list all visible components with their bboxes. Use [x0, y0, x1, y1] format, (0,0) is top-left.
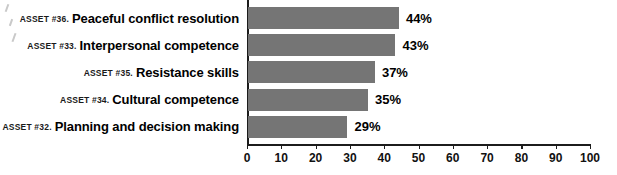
- x-axis-tick: [316, 145, 317, 149]
- asset-title: Resistance skills: [136, 65, 239, 80]
- x-axis-tick: [487, 145, 488, 149]
- x-axis-tick: [384, 145, 385, 149]
- bar: [248, 61, 375, 83]
- category-label: ASSET #36.Peaceful conflict resolution: [20, 7, 239, 29]
- category-label-column: ASSET #36.Peaceful conflict resolutionAS…: [0, 0, 243, 145]
- x-axis-tick: [281, 145, 282, 149]
- x-axis-tick-label: 40: [378, 151, 391, 165]
- asset-number: ASSET #35.: [84, 68, 133, 78]
- asset-number: ASSET #34.: [60, 95, 109, 105]
- bar: [248, 7, 399, 29]
- asset-title: Planning and decision making: [55, 119, 239, 134]
- asset-number: ASSET #32.: [2, 122, 51, 132]
- bar-value-label: 43%: [402, 34, 428, 56]
- bar: [248, 89, 368, 111]
- x-axis-tick-label: 100: [580, 151, 600, 165]
- category-label: ASSET #34.Cultural competence: [60, 89, 239, 111]
- category-label: ASSET #33.Interpersonal competence: [27, 34, 239, 56]
- bar-value-label: 37%: [382, 61, 408, 83]
- x-axis-tick: [521, 145, 522, 149]
- x-axis-tick-label: 20: [309, 151, 322, 165]
- category-label: ASSET #32.Planning and decision making: [2, 116, 239, 138]
- x-axis-tick-label: 70: [480, 151, 493, 165]
- bar-value-label: 29%: [354, 116, 380, 138]
- x-axis-tick-label: 10: [275, 151, 288, 165]
- social-competencies-bar-chart: ASSET #36.Peaceful conflict resolutionAS…: [0, 0, 617, 175]
- x-axis-tick-label: 80: [515, 151, 528, 165]
- x-axis-tick: [350, 145, 351, 149]
- plot-area: 0102030405060708090100 44%43%37%35%29%: [247, 0, 617, 175]
- asset-number: ASSET #33.: [27, 41, 76, 51]
- x-axis-tick: [590, 145, 591, 149]
- bar-value-label: 44%: [406, 7, 432, 29]
- x-axis-tick-label: 30: [343, 151, 356, 165]
- asset-title: Cultural competence: [112, 92, 239, 107]
- x-axis-tick: [556, 145, 557, 149]
- x-axis-tick: [453, 145, 454, 149]
- asset-title: Interpersonal competence: [80, 38, 239, 53]
- x-axis-tick-label: 0: [244, 151, 251, 165]
- x-axis-tick-label: 50: [412, 151, 425, 165]
- category-label: ASSET #35.Resistance skills: [84, 61, 239, 83]
- asset-title: Peaceful conflict resolution: [72, 11, 239, 26]
- x-axis-tick: [247, 145, 248, 149]
- bar-value-label: 35%: [375, 89, 401, 111]
- asset-number: ASSET #36.: [20, 14, 69, 24]
- x-axis-tick-label: 90: [549, 151, 562, 165]
- bar: [248, 116, 347, 138]
- x-axis-tick: [419, 145, 420, 149]
- bar: [248, 34, 395, 56]
- x-axis-tick-label: 60: [446, 151, 459, 165]
